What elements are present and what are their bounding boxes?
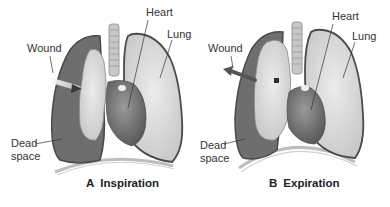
leader-wound [231, 56, 233, 68]
label-heart: Heart [146, 6, 173, 18]
caption-inspiration: AInspiration [86, 177, 159, 189]
label-wound: Wound [208, 42, 243, 54]
panel-inspiration: Heart Lung Wound Dead space AInspiration [0, 0, 195, 207]
label-lung: Lung [167, 28, 191, 40]
inspiration-illustration [0, 0, 195, 207]
collapsed-lung [254, 40, 290, 140]
caption-letter: A [86, 177, 94, 189]
label-dead-space-line1: Dead [11, 137, 37, 149]
trachea [109, 24, 119, 76]
great-vessels [118, 85, 126, 91]
leader-wound [50, 56, 53, 73]
panel-expiration: Heart Lung Wound Dead space BExpiration [195, 0, 390, 207]
caption-letter: B [269, 177, 277, 189]
caption-expiration: BExpiration [269, 177, 340, 189]
arrow-out-icon [223, 66, 233, 76]
trachea [292, 22, 302, 74]
label-lung: Lung [352, 30, 376, 42]
label-dead-space-line1: Dead [200, 139, 226, 151]
label-wound: Wound [27, 42, 62, 54]
label-heart: Heart [332, 10, 359, 22]
caption-title: Expiration [283, 177, 339, 189]
caption-title: Inspiration [100, 177, 159, 189]
label-dead-space-line2: space [11, 150, 40, 162]
label-dead-space-line2: space [200, 152, 229, 164]
wound-mark [274, 78, 279, 83]
great-vessels [301, 85, 309, 91]
